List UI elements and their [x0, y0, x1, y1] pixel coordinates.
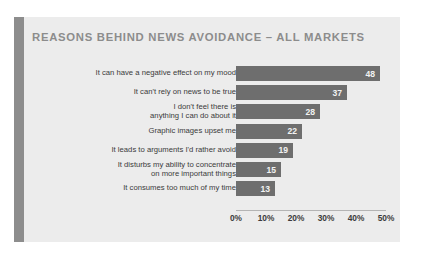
x-axis-tick-label: 20%: [279, 213, 313, 224]
bar-value-label: 13: [260, 184, 270, 194]
bar-value-label: 15: [266, 165, 276, 175]
bar-category-label: It leads to arguments I'd rather avoid: [46, 145, 236, 154]
bar-category-label: I don't feel there is anything I can do …: [46, 102, 236, 120]
x-axis-tick-label: 10%: [249, 213, 283, 224]
x-axis-tick-label: 40%: [339, 213, 373, 224]
bar-category-label: It disturbs my ability to concentrate on…: [46, 160, 236, 178]
bar-value-label: 28: [305, 107, 315, 117]
bar-track: 22: [236, 124, 302, 139]
bar-row: It consumes too much of my time13: [14, 179, 400, 198]
bar-value-label: 37: [332, 88, 342, 98]
bar-row: I don't feel there is anything I can do …: [14, 102, 400, 121]
bar-fill[interactable]: [236, 66, 380, 81]
x-axis-tick-labels: 0%10%20%30%40%50%: [236, 213, 396, 227]
bar-track: 15: [236, 162, 281, 177]
bar-row: Graphic images upset me22: [14, 122, 400, 141]
bar-category-label: It can have a negative effect on my mood: [46, 68, 236, 77]
x-axis-line: [236, 210, 386, 211]
x-axis-tick-label: 30%: [309, 213, 343, 224]
bar-value-label: 19: [278, 145, 288, 155]
bar-track: 28: [236, 104, 320, 119]
bar-row: It can't rely on news to be true37: [14, 83, 400, 102]
bar-row: It disturbs my ability to concentrate on…: [14, 160, 400, 179]
x-axis-tick-label: 0%: [219, 213, 253, 224]
bar-value-label: 48: [365, 69, 375, 79]
bar-category-label: Graphic images upset me: [46, 126, 236, 135]
bar-value-label: 22: [287, 126, 297, 136]
chart-title: REASONS BEHIND NEWS AVOIDANCE – ALL MARK…: [32, 30, 384, 44]
bar-track: 19: [236, 143, 293, 158]
bar-fill[interactable]: [236, 85, 347, 100]
bar-track: 13: [236, 181, 275, 196]
chart-card: REASONS BEHIND NEWS AVOIDANCE – ALL MARK…: [14, 17, 400, 242]
bar-row: It can have a negative effect on my mood…: [14, 64, 400, 83]
bar-row: It leads to arguments I'd rather avoid19: [14, 141, 400, 160]
bar-category-label: It consumes too much of my time: [46, 183, 236, 192]
x-axis-tick-label: 50%: [369, 213, 400, 224]
bar-track: 48: [236, 66, 380, 81]
bar-track: 37: [236, 85, 347, 100]
bar-category-label: It can't rely on news to be true: [46, 87, 236, 96]
